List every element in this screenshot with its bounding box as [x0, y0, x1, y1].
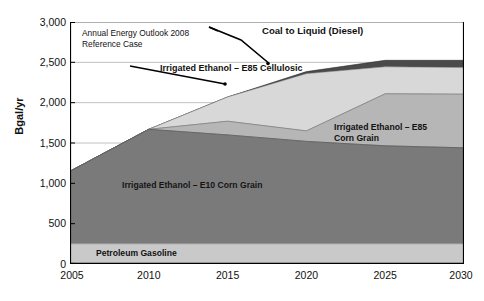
y-tick-1500: 1,500 [40, 138, 66, 149]
annotation-e10-corn-grain: Irrigated Ethanol – E10 Corn Grain [122, 180, 262, 191]
y-axis-title: Bgal/yr [13, 81, 25, 151]
x-tick-2020: 2020 [295, 270, 318, 281]
y-tick-3000: 3,000 [40, 17, 66, 28]
y-tick-2000: 2,000 [40, 97, 66, 108]
x-axis-tick-labels: 2005 2010 2015 2020 2025 2030 [70, 270, 464, 288]
annotation-e85-corn-line1: Irrigated Ethanol – E85 [334, 122, 427, 132]
y-tick-2500: 2,500 [40, 57, 66, 68]
y-tick-0: 0 [60, 259, 66, 270]
annotation-coal-to-liquid: Coal to Liquid (Diesel) [262, 25, 363, 37]
y-tick-500: 500 [48, 218, 66, 229]
annotation-source-line1: Annual Energy Outlook 2008 [82, 28, 189, 38]
y-tick-1000: 1,000 [40, 178, 66, 189]
annotation-e85-cellulosic: Irrigated Ethanol – E85 Cellulosic [160, 63, 303, 74]
x-tick-2010: 2010 [137, 270, 160, 281]
annotation-e85-corn-line2: Corn Grain [334, 133, 379, 143]
x-tick-2030: 2030 [449, 270, 472, 281]
annotation-petroleum-gasoline: Petroleum Gasoline [96, 248, 177, 259]
annotation-source-line2: Reference Case [82, 39, 143, 49]
x-tick-2005: 2005 [60, 270, 83, 281]
x-tick-2015: 2015 [216, 270, 239, 281]
x-tick-2025: 2025 [374, 270, 397, 281]
annotation-source: Annual Energy Outlook 2008Reference Case [82, 28, 189, 49]
annotation-e85-corn-grain: Irrigated Ethanol – E85Corn Grain [334, 122, 427, 143]
chart-figure: 3,000 2,500 2,000 1,500 1,000 500 0 Bgal… [0, 0, 484, 301]
